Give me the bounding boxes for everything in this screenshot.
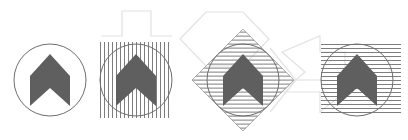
chevron-up-notched-icon [30,54,70,106]
figure-plain[interactable] [14,44,86,116]
pulse-outline-icon [101,11,172,36]
figure-vertical-hatch[interactable] [100,42,172,118]
logo-variations-svg [0,0,408,140]
illustration-canvas [0,0,408,140]
figure-horizontal-hatch[interactable] [321,44,401,116]
figure-diagonal-hatch[interactable] [192,29,294,131]
